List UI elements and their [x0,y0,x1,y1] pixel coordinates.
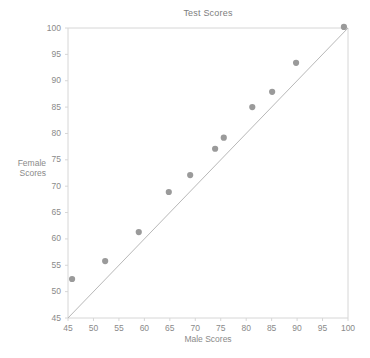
scatter-chart: Test Scores Female Scores Male Scores 45… [0,0,370,358]
y-tick-label: 50 [37,287,61,296]
x-tick-label: 90 [285,324,309,333]
y-tick-label: 70 [37,182,61,191]
y-axis-title-line-2: Scores [4,168,46,178]
x-tick-label: 70 [183,324,207,333]
data-point[interactable] [69,276,75,282]
data-point[interactable] [166,189,172,195]
y-tick-label: 65 [37,208,61,217]
data-point[interactable] [293,60,299,66]
data-point[interactable] [212,146,218,152]
data-point[interactable] [249,104,255,110]
x-tick-label: 50 [81,324,105,333]
x-tick-label: 60 [132,324,156,333]
y-tick-label: 55 [37,261,61,270]
y-tick-label: 60 [37,234,61,243]
data-point[interactable] [102,258,108,264]
x-tick-label: 100 [336,324,360,333]
x-tick-label: 75 [209,324,233,333]
x-tick-label: 45 [56,324,80,333]
data-point[interactable] [269,89,275,95]
x-tick-label: 55 [107,324,131,333]
y-tick-label: 75 [37,155,61,164]
x-tick-label: 85 [260,324,284,333]
y-tick-label: 90 [37,76,61,85]
y-tick-label: 95 [37,50,61,59]
x-tick-label: 80 [234,324,258,333]
data-point[interactable] [136,229,142,235]
y-tick-label: 85 [37,103,61,112]
x-tick-label: 65 [158,324,182,333]
y-tick-label: 80 [37,129,61,138]
y-tick-label: 100 [37,24,61,33]
y-tick-label: 45 [37,314,61,323]
x-tick-label: 95 [311,324,335,333]
x-axis-title: Male Scores [68,334,348,344]
reference-line [68,28,348,318]
data-point[interactable] [341,24,347,30]
data-point[interactable] [221,135,227,141]
data-point[interactable] [187,172,193,178]
